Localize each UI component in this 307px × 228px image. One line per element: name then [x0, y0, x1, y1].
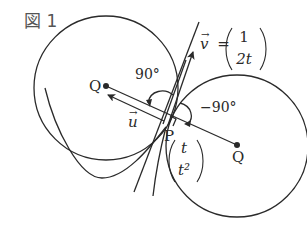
label-vector-u: → u — [128, 115, 138, 130]
p-component-1: t — [171, 141, 197, 156]
vector-v-matrix: 1 2t — [228, 28, 260, 70]
label-vector-v: → v = — [200, 37, 230, 52]
label-angle-minus-90: −90° — [200, 100, 237, 114]
p-paren-right — [197, 140, 203, 182]
vector-arrow-icon: → — [201, 30, 209, 40]
v-component-2: 2t — [228, 52, 260, 67]
v-component-1: 1 — [228, 30, 260, 45]
vector-arrow-icon: → — [129, 108, 137, 118]
point-p-matrix: t t² — [171, 139, 197, 181]
label-angle-90: 90° — [135, 67, 160, 81]
figure-title: 図 1 — [24, 13, 57, 30]
vector-v-shaft — [168, 52, 193, 125]
center-dot-left — [103, 83, 109, 89]
diagram-canvas — [0, 0, 307, 228]
label-q-right: Q — [232, 150, 244, 165]
label-q-left: Q — [89, 79, 101, 94]
p-component-2: t² — [171, 163, 197, 178]
v-paren-right — [260, 28, 266, 70]
